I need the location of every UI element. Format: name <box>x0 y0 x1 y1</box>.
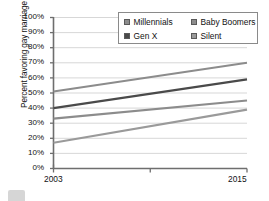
legend-item-gen-x: Gen X <box>124 31 157 41</box>
legend-item-baby-boomers: Baby Boomers <box>191 17 255 27</box>
legend-swatch-silent <box>191 33 197 39</box>
legend: Millennials Baby Boomers Gen X Silent <box>118 12 258 44</box>
legend-swatch-baby-boomers <box>191 19 197 25</box>
legend-swatch-gen-x <box>124 33 130 39</box>
legend-item-silent: Silent <box>191 31 221 41</box>
legend-label-baby-boomers: Baby Boomers <box>201 17 256 27</box>
legend-label-millennials: Millennials <box>134 17 173 27</box>
page-corner-artifact <box>8 190 25 201</box>
legend-label-silent: Silent <box>201 31 222 41</box>
legend-item-millennials: Millennials <box>124 17 173 27</box>
legend-label-gen-x: Gen X <box>134 31 158 41</box>
x-tick-label-start: 2003 <box>44 174 63 184</box>
x-tick-label-end: 2015 <box>228 174 247 184</box>
legend-swatch-millennials <box>124 19 130 25</box>
line-chart: 100% 90% 80% 70% 60% 50% 40% 30% 20% 10%… <box>0 0 269 201</box>
series-lines <box>54 63 248 143</box>
